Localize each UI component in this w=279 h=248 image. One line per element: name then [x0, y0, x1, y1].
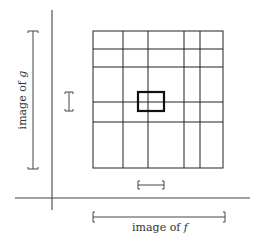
image-f-label: image of f — [132, 221, 190, 234]
grid-border — [93, 31, 223, 168]
function-image-diagram: image of f image of g — [0, 0, 279, 248]
image-g-bracket — [28, 31, 38, 169]
axes — [15, 10, 250, 210]
brackets — [28, 31, 225, 222]
small-vertical-bracket — [65, 92, 73, 111]
image-g-label: image of g — [16, 71, 29, 130]
grid — [93, 31, 223, 168]
small-horizontal-bracket — [138, 181, 164, 189]
